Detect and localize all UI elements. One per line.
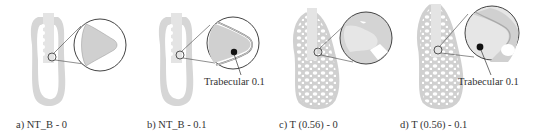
caption-panel-b: b) NT_B - 0.1 <box>147 119 207 130</box>
figure-canvas <box>0 0 542 137</box>
implant <box>431 4 441 57</box>
panel-c <box>294 8 392 108</box>
panel-d <box>418 4 519 108</box>
callout-label-b: Trabecular 0.1 <box>204 76 265 87</box>
callout-label-d: Trabecular 0.1 <box>458 76 519 87</box>
magnified-inset <box>74 19 126 71</box>
implant <box>171 13 182 63</box>
magnified-inset <box>465 6 519 62</box>
caption-panel-c: c) T (0.56) - 0 <box>279 119 338 130</box>
panel-b <box>159 13 259 106</box>
caption-panel-d: d) T (0.56) - 0.1 <box>400 119 467 130</box>
panel-a <box>31 13 126 106</box>
caption-panel-a: a) NT_B - 0 <box>16 119 67 130</box>
trabecular-point <box>477 44 484 51</box>
magnified-inset <box>207 17 259 69</box>
implant <box>307 8 317 60</box>
magnified-inset <box>340 12 392 64</box>
